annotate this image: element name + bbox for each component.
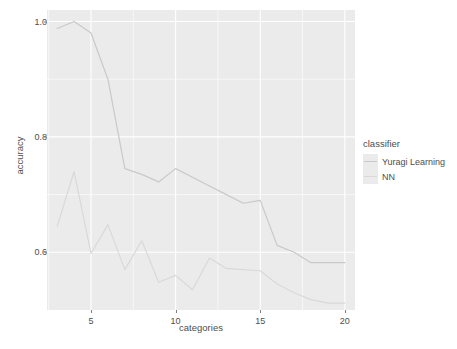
legend-item[interactable]: Yuragi Learning (363, 154, 455, 169)
legend-label: Yuragi Learning (382, 157, 445, 167)
legend-items: Yuragi LearningNN (363, 154, 455, 184)
y-axis-ticks: 0.60.81.0 (14, 0, 47, 310)
x-tick-mark (345, 310, 346, 313)
series-lines (57, 22, 345, 304)
plot-area-svg (47, 10, 355, 310)
legend-label: NN (382, 172, 395, 182)
x-axis-title: categories (47, 322, 355, 333)
series-line (57, 172, 345, 304)
x-tick-mark (91, 310, 92, 313)
legend-title: classifier (363, 138, 455, 149)
legend-key-swatch (363, 154, 378, 169)
gridlines-major (47, 10, 355, 310)
legend: classifier Yuragi LearningNN (363, 138, 455, 184)
x-tick-mark (176, 310, 177, 313)
legend-key-swatch (363, 169, 378, 184)
legend-item[interactable]: NN (363, 169, 455, 184)
x-tick-mark (260, 310, 261, 313)
series-line (57, 22, 345, 263)
gridlines-minor (47, 10, 355, 310)
line-chart: accuracy 0.60.81.0 5101520 categories cl… (0, 0, 457, 349)
plot-panel (47, 10, 355, 310)
